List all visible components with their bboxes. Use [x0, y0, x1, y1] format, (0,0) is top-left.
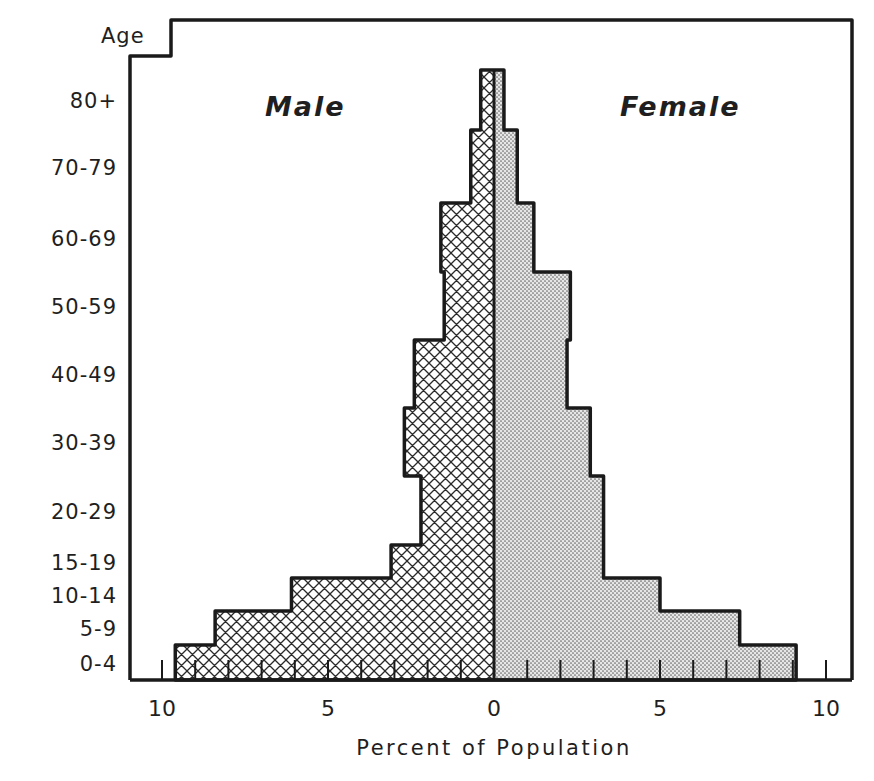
male-bar-80+ — [481, 70, 494, 130]
age-label: 0-4 — [80, 652, 117, 676]
female-bar-30-39 — [494, 408, 590, 476]
female-bar-15-19 — [494, 545, 604, 578]
age-label: 15-19 — [51, 551, 117, 575]
age-label: 5-9 — [80, 617, 117, 641]
male-bar-70-79 — [471, 130, 494, 203]
female-bar-70-79 — [494, 130, 517, 203]
female-bar-40-49 — [494, 340, 567, 408]
age-label: 70-79 — [51, 156, 117, 180]
female-bar-20-29 — [494, 476, 604, 545]
age-axis-label: Age — [101, 24, 145, 48]
female-bar-5-9 — [494, 611, 740, 645]
male-bar-60-69 — [441, 203, 494, 272]
female-bar-10-14 — [494, 578, 660, 611]
x-tick-label: 5 — [321, 696, 335, 721]
female-bars — [494, 70, 796, 680]
age-label: 80+ — [70, 89, 117, 113]
x-tick-label: 10 — [812, 696, 840, 721]
age-label: 20-29 — [51, 500, 117, 524]
x-axis-title: Percent of Population — [356, 736, 631, 760]
age-label: 40-49 — [51, 363, 117, 387]
x-tick-label: 0 — [487, 696, 501, 721]
x-tick-label: 5 — [653, 696, 667, 721]
age-label: 10-14 — [51, 584, 117, 608]
female-bar-50-59 — [494, 272, 570, 340]
female-bar-0-4 — [494, 645, 796, 680]
male-bar-20-29 — [421, 476, 494, 545]
x-tick-label: 10 — [148, 696, 176, 721]
male-bar-40-49 — [414, 340, 494, 408]
male-bar-0-4 — [175, 645, 494, 680]
age-label: 30-39 — [51, 431, 117, 455]
male-legend-label: Male — [265, 91, 346, 122]
population-pyramid-chart: 1050510 80+70-7960-6950-5940-4930-3920-2… — [0, 0, 874, 781]
female-bar-60-69 — [494, 203, 534, 272]
male-bars — [175, 70, 494, 680]
male-bar-15-19 — [391, 545, 494, 578]
age-label: 60-69 — [51, 227, 117, 251]
female-legend-label: Female — [620, 91, 741, 122]
x-axis-tick-labels: 1050510 — [148, 696, 840, 721]
male-bar-10-14 — [291, 578, 494, 611]
male-bar-5-9 — [215, 611, 494, 645]
age-label: 50-59 — [51, 295, 117, 319]
male-bar-50-59 — [444, 272, 494, 340]
male-bar-30-39 — [404, 408, 494, 476]
age-group-labels: 80+70-7960-6950-5940-4930-3920-2915-1910… — [51, 89, 117, 676]
